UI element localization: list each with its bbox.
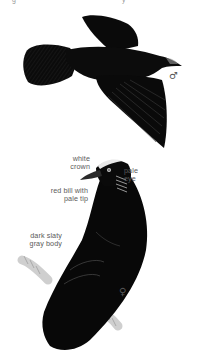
female-symbol: ♀: [119, 286, 126, 297]
label-dark-slaty-body: dark slaty gray body: [20, 232, 62, 248]
flying-bird-illustration: [0, 0, 198, 361]
label-red-bill: red bill with pale tip: [30, 187, 88, 203]
label-white-crown: white crown: [58, 155, 90, 171]
label-pale-eye: pale eye: [124, 167, 154, 183]
male-symbol: ♂: [169, 70, 178, 81]
field-guide-plate: g y: [0, 0, 198, 361]
